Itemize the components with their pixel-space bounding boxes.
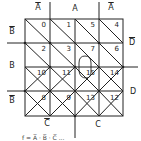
cell-2: 2 xyxy=(34,46,46,53)
label-top-not-a-right: A xyxy=(105,4,117,12)
label-right-not-d: D xyxy=(126,39,138,47)
label-right-d: D xyxy=(127,88,139,96)
cell-8: 8 xyxy=(34,95,46,102)
cell-11: 11 xyxy=(59,70,71,77)
cell-13: 13 xyxy=(83,95,95,102)
cell-6: 6 xyxy=(107,46,119,53)
cell-0: 0 xyxy=(34,22,46,29)
label-bottom-c: C xyxy=(92,121,104,129)
caption: f = A̅ · B̅ · C̅ ... xyxy=(22,135,64,141)
cell-4: 4 xyxy=(107,22,119,29)
cell-3: 3 xyxy=(59,46,71,53)
cell-1: 1 xyxy=(59,22,71,29)
cell-14: 14 xyxy=(107,70,119,77)
cell-7: 7 xyxy=(83,46,95,53)
label-top-a: A xyxy=(69,5,81,13)
cell-5: 5 xyxy=(83,22,95,29)
label-left-b: B xyxy=(6,62,18,70)
label-left-not-b-bottom: B xyxy=(6,97,18,105)
label-top-not-a-left: A xyxy=(32,4,44,12)
cell-9: 9 xyxy=(59,95,71,102)
label-left-not-b-top: B xyxy=(6,28,18,36)
cell-12: 12 xyxy=(107,95,119,102)
cell-10: 10 xyxy=(34,70,46,77)
cell-15: 15 xyxy=(83,70,95,77)
label-bottom-not-c: C xyxy=(41,120,53,128)
